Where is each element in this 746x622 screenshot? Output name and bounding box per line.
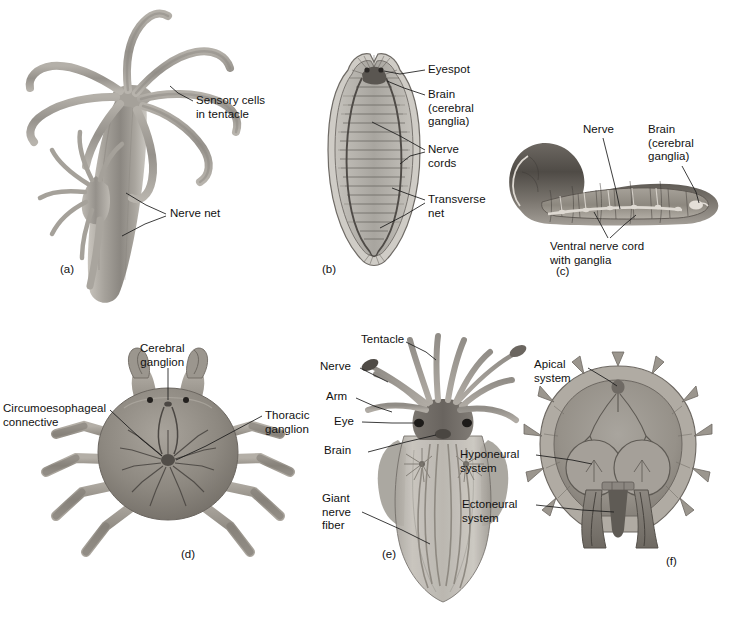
label-circumoesophageal-connective: Circumoesophageal connective <box>3 402 106 429</box>
comparative-nervous-systems-figure: Sensory cells in tentacle Nerve net (a) <box>0 0 746 622</box>
label-brain-cerebral-ganglia: Brain (cerebral ganglia) <box>428 88 474 129</box>
crab-illustration <box>0 330 330 600</box>
label-brain-cerebral-ganglia: Brain (cerebral ganglia) <box>648 123 694 164</box>
crab-eye-right <box>183 397 189 403</box>
squid-eye-left <box>414 419 424 427</box>
panel-d-crab: Cerebral ganglion Circumoesophageal conn… <box>0 330 330 600</box>
squid-brain <box>435 429 451 439</box>
label-giant-nerve-fiber: Giant nerve fiber <box>322 492 351 533</box>
squid-eye-right <box>462 419 472 427</box>
label-ectoneural-system: Ectoneural system <box>462 498 517 525</box>
label-sensory-cells-in-tentacle: Sensory cells in tentacle <box>196 94 265 121</box>
panel-b-flatworm: Eyespot Brain (cerebral ganglia) Nerve c… <box>300 40 500 290</box>
label-thoracic-ganglion: Thoracic ganglion <box>265 409 310 436</box>
flatworm-eyespot-left <box>364 67 369 72</box>
label-cerebral-ganglion: Cerebral ganglion <box>140 342 185 369</box>
label-eyespot: Eyespot <box>428 63 470 77</box>
panel-f-echinoderm: Apical system Hyponeural system Ectoneur… <box>490 340 746 600</box>
panel-letter-c: (c) <box>556 265 569 278</box>
panel-letter-d: (d) <box>181 548 195 561</box>
crab-eye-left <box>147 397 153 403</box>
echinoderm-illustration <box>490 340 746 600</box>
leader-eye <box>362 422 414 423</box>
flatworm-eyespot-right <box>378 67 383 72</box>
label-nerve-cords: Nerve cords <box>428 143 459 170</box>
echinoderm-nerve-ring-bar <box>602 482 634 490</box>
panel-letter-f: (f) <box>666 555 677 568</box>
label-tentacle: Tentacle <box>361 333 404 347</box>
label-eye: Eye <box>334 415 354 429</box>
flatworm-illustration <box>300 40 500 290</box>
panel-letter-b: (b) <box>322 263 336 276</box>
label-nerve: Nerve <box>583 123 614 137</box>
panel-a-hydra: Sensory cells in tentacle Nerve net (a) <box>0 0 320 310</box>
label-transverse-net: Transverse net <box>428 193 486 220</box>
panel-letter-e: (e) <box>382 548 396 561</box>
panel-letter-a: (a) <box>60 263 74 276</box>
label-brain: Brain <box>324 444 351 458</box>
label-nerve-net: Nerve net <box>170 207 220 221</box>
panel-c-earthworm: Nerve Brain (cerebral ganglia) Ventral n… <box>490 60 746 290</box>
crab-cerebral-ganglion <box>164 401 172 406</box>
label-ventral-nerve-cord-with-ganglia: Ventral nerve cord with ganglia <box>550 240 644 267</box>
crab-thoracic-ganglion <box>161 454 175 466</box>
label-nerve: Nerve <box>320 360 351 374</box>
label-apical-system: Apical system <box>534 358 571 385</box>
hydra-illustration <box>0 0 320 310</box>
label-arm: Arm <box>326 390 347 404</box>
label-hyponeural-system: Hyponeural system <box>460 448 519 475</box>
